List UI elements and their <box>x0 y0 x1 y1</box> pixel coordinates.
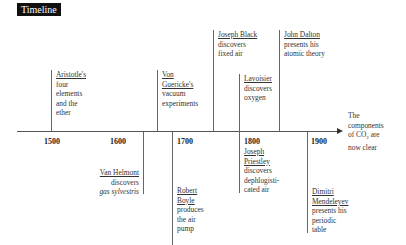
event-dimitri-mendeleyev: Dimitri Mendeleyev presents his periodic… <box>312 187 372 235</box>
event-desc: pump <box>177 224 217 234</box>
event-marker-van-helmont <box>143 132 144 194</box>
event-desc: atomic theory <box>284 49 354 59</box>
event-joseph-priestley: Joseph Priestley discovers dephlogisti- … <box>244 147 294 195</box>
event-desc: dephlogisti- <box>244 176 294 186</box>
event-name: Van Helmont <box>78 168 139 178</box>
end-note-text: are <box>369 130 380 139</box>
event-joseph-black: Joseph Black discovers fixed air <box>218 30 278 59</box>
end-note-line: components <box>348 121 406 131</box>
event-name: Joseph <box>244 147 294 157</box>
end-note-line: of CO2 are <box>348 130 406 143</box>
event-name: Guericke's <box>162 80 212 90</box>
event-desc: discovers <box>244 84 284 94</box>
event-desc: discovers <box>218 40 278 50</box>
event-desc: ether <box>56 108 106 118</box>
axis-arrowhead-icon <box>337 128 343 134</box>
event-desc: fixed air <box>218 49 278 59</box>
event-name: Boyle <box>177 196 217 206</box>
event-name: Lavoisier <box>244 74 284 84</box>
event-desc: table <box>312 225 372 235</box>
year-label-1700: 1700 <box>177 137 193 146</box>
event-marker-aristotle <box>51 70 52 132</box>
event-marker-joseph-black <box>213 30 214 132</box>
event-marker-von-guericke <box>157 70 158 132</box>
event-marker-robert-boyle <box>172 132 173 245</box>
event-name: Priestley <box>244 157 294 167</box>
event-desc: experiments <box>162 99 212 109</box>
event-robert-boyle: Robert Boyle produces the air pump <box>177 186 217 234</box>
year-label-1900: 1900 <box>311 137 327 146</box>
event-name: Von <box>162 70 212 80</box>
event-marker-john-dalton <box>279 30 280 132</box>
event-desc: vacuum <box>162 89 212 99</box>
timeline-title: Timeline <box>17 3 61 16</box>
event-desc: periodic <box>312 216 372 226</box>
year-label-1800: 1800 <box>244 137 260 146</box>
event-desc: discovers <box>244 166 294 176</box>
end-note-text: of CO <box>348 130 366 139</box>
year-label-1500: 1500 <box>44 137 60 146</box>
event-john-dalton: John Dalton presents his atomic theory <box>284 30 354 59</box>
end-note-line: The <box>348 111 406 121</box>
event-name: John Dalton <box>284 30 354 40</box>
event-desc: the air <box>177 215 217 225</box>
event-desc: produces <box>177 205 217 215</box>
timeline-axis <box>17 131 339 132</box>
event-desc: cated air <box>244 185 294 195</box>
year-label-1600: 1600 <box>110 137 126 146</box>
event-marker-joseph-priestley <box>239 132 240 193</box>
event-desc: elements <box>56 89 106 99</box>
event-desc: discovers <box>78 178 139 188</box>
end-note: The components of CO2 are now clear <box>348 111 406 152</box>
event-desc: gas sylvestris <box>78 187 139 197</box>
event-aristotle: Aristotle's four elements and the ether <box>56 70 106 118</box>
event-name: Robert <box>177 186 217 196</box>
event-desc: four <box>56 80 106 90</box>
event-desc: presents his <box>312 206 372 216</box>
event-name: Aristotle's <box>56 70 106 80</box>
event-name: Joseph Black <box>218 30 278 40</box>
event-marker-lavoisier <box>239 74 240 132</box>
event-name: Dimitri <box>312 187 372 197</box>
event-desc: oxygen <box>244 93 284 103</box>
event-marker-dimitri-mendeleyev <box>307 132 308 233</box>
event-lavoisier: Lavoisier discovers oxygen <box>244 74 284 103</box>
event-name: Mendeleyev <box>312 197 372 207</box>
event-van-helmont: Van Helmont discovers gas sylvestris <box>78 168 139 197</box>
event-von-guericke: Von Guericke's vacuum experiments <box>162 70 212 108</box>
event-desc: and the <box>56 99 106 109</box>
end-note-line: now clear <box>348 143 406 153</box>
event-desc: presents his <box>284 40 354 50</box>
